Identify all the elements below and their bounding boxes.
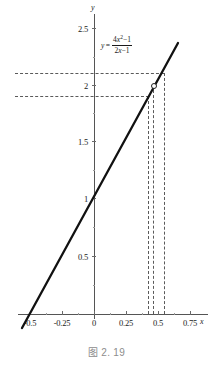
equation-equals: = bbox=[106, 41, 110, 50]
figure-caption: 图 2. 19 bbox=[0, 344, 213, 359]
figure-2-19: -0.5 -0.25 0 0.25 0.5 0.75 0.5 1 1.5 2 2… bbox=[0, 0, 213, 371]
exponent-2: 2 bbox=[120, 34, 123, 40]
equation-numerator: 4x2−1 bbox=[112, 36, 132, 46]
equation-denominator: 2x−1 bbox=[113, 46, 130, 55]
equation-fraction: 4x2−1 2x−1 bbox=[112, 36, 132, 55]
plot-area: -0.5 -0.25 0 0.25 0.5 0.75 0.5 1 1.5 2 2… bbox=[0, 0, 213, 340]
function-equation-annotation: y = 4x2−1 2x−1 bbox=[101, 36, 132, 55]
equation-lhs: y bbox=[101, 41, 104, 50]
removable-discontinuity-marker bbox=[151, 83, 157, 89]
